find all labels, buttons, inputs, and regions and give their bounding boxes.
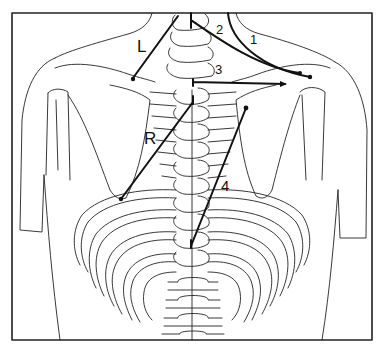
- anatomical-diagram: L 2 1 3 R 4: [0, 0, 384, 351]
- torso-right: [322, 190, 338, 340]
- right-shoulder: [335, 62, 367, 238]
- left-shoulder: [20, 58, 55, 232]
- line-R: [121, 96, 193, 199]
- diagram-drawing: [0, 0, 384, 351]
- ribs-right: [208, 190, 310, 322]
- label-1: 1: [250, 33, 257, 46]
- label-R: R: [144, 130, 156, 147]
- torso-left: [44, 175, 60, 340]
- label-3: 3: [215, 63, 222, 76]
- label-2: 2: [216, 23, 223, 36]
- label-4: 4: [221, 178, 229, 193]
- ribs-left: [74, 190, 176, 322]
- line-2: [191, 13, 300, 73]
- lumbar-spine: [162, 278, 224, 335]
- left-scapula: [68, 85, 150, 199]
- label-L: L: [137, 38, 146, 55]
- right-humerus: [300, 88, 325, 181]
- left-humerus: [46, 89, 70, 180]
- right-acromion: [232, 64, 330, 82]
- right-scapula: [236, 85, 300, 198]
